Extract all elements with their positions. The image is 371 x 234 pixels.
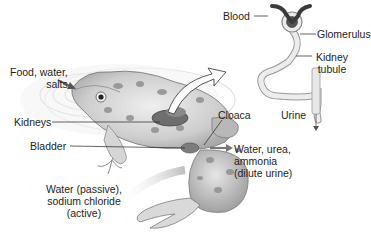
- label-line: ammonia: [234, 155, 292, 167]
- label-line: (dilute urine): [234, 167, 292, 179]
- label-cloaca: Cloaca: [218, 109, 251, 121]
- label-water-urea: Water, urea, ammonia (dilute urine): [234, 143, 292, 179]
- label-glomerulus: Glomerulus: [317, 28, 371, 40]
- label-line: salts: [10, 78, 68, 90]
- label-line: Water, urea,: [234, 143, 292, 155]
- label-line: Water (passive),: [44, 183, 124, 195]
- label-food-water-salts: Food, water, salts: [10, 66, 68, 90]
- label-water-passive: Water (passive), sodium chloride (active…: [44, 183, 124, 219]
- label-kidneys: Kidneys: [14, 116, 51, 128]
- label-blood: Blood: [223, 10, 250, 22]
- label-line: tubule: [314, 63, 350, 75]
- label-line: sodium chloride: [44, 195, 124, 207]
- label-bladder: Bladder: [30, 140, 66, 152]
- label-urine: Urine: [281, 109, 306, 121]
- label-line: Food, water,: [10, 66, 68, 78]
- label-line: (active): [44, 207, 124, 219]
- label-line: Kidney: [314, 51, 350, 63]
- label-kidney-tubule: Kidney tubule: [314, 51, 350, 75]
